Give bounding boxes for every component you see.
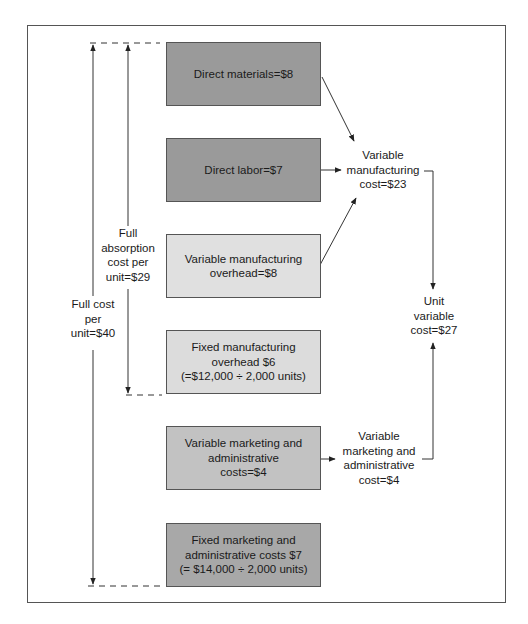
box-fixed-mfg-overhead: Fixed manufacturing overhead $6 (=$12,00… xyxy=(166,330,321,394)
box-text: Variable manufacturing overhead=$8 xyxy=(185,252,302,281)
box-variable-mfg-overhead: Variable manufacturing overhead=$8 xyxy=(166,234,321,298)
label-full-absorption-cost: Full absorption cost per unit=$29 xyxy=(96,226,160,284)
materials-arrow xyxy=(322,77,354,141)
mkt-to-unit-arrow xyxy=(422,343,433,459)
label-unit-variable-cost: Unit variable cost=$27 xyxy=(398,294,470,338)
box-fixed-mkt-admin: Fixed marketing and administrative costs… xyxy=(166,523,321,587)
box-text: Fixed manufacturing overhead $6 (=$12,00… xyxy=(181,340,306,384)
box-variable-mkt-admin: Variable marketing and administrative co… xyxy=(166,426,321,490)
label-variable-mfg-cost: Variable manufacturing cost=$23 xyxy=(340,148,426,192)
box-direct-materials: Direct materials=$8 xyxy=(166,42,321,106)
label-variable-mkt-admin-cost: Variable marketing and administrative co… xyxy=(336,429,422,487)
box-direct-labor: Direct labor=$7 xyxy=(166,138,321,202)
box-text: Fixed marketing and administrative costs… xyxy=(179,533,307,577)
label-full-cost: Full cost per unit=$40 xyxy=(60,297,126,341)
box-text: Direct materials=$8 xyxy=(194,67,293,82)
box-text: Direct labor=$7 xyxy=(204,163,282,178)
overhead-arrow xyxy=(320,198,356,265)
box-text: Variable marketing and administrative co… xyxy=(185,436,302,480)
